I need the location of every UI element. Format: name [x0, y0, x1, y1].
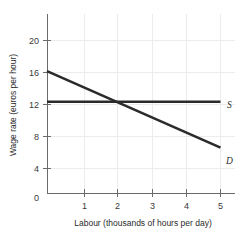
- y-axis-title: Wage rate (euros per hour): [8, 54, 18, 156]
- x-tick-label-2: 2: [115, 201, 120, 211]
- x-axis-title: Labour (thousands of hours per day): [74, 218, 212, 228]
- x-tick-label-4: 4: [184, 201, 189, 211]
- x-tick-label-1: 1: [82, 201, 87, 211]
- y-tick-label-12: 12: [29, 100, 39, 110]
- y-tick-label-16: 16: [29, 68, 39, 78]
- y-tick-label-0: 0: [34, 193, 39, 203]
- y-tick-label-4: 4: [34, 164, 39, 174]
- wage-labour-chart: 20 16 12 8 4 0 1 2 3 4 5 S D Labour (tho…: [0, 0, 245, 238]
- x-tick-label-5: 5: [218, 201, 223, 211]
- y-tick-label-8: 8: [34, 132, 39, 142]
- x-tick-label-3: 3: [150, 201, 155, 211]
- supply-curve-label: S: [227, 100, 232, 110]
- y-tick-label-20: 20: [29, 36, 39, 46]
- demand-curve-label: D: [225, 156, 233, 166]
- chart-container: 20 16 12 8 4 0 1 2 3 4 5 S D Labour (tho…: [0, 0, 245, 238]
